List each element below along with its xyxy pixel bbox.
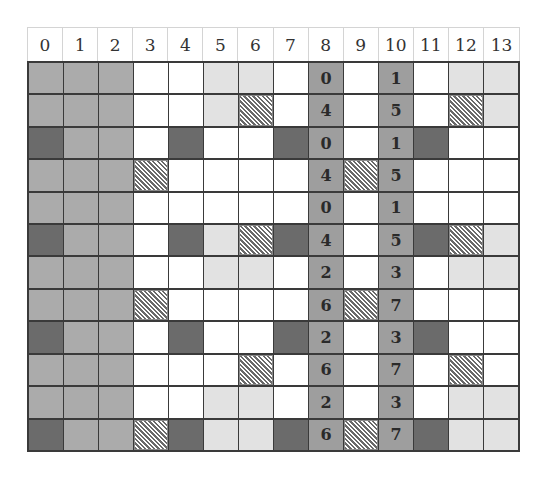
grid-cell-r4-c9-white (344, 193, 378, 223)
grid-cell-r10-c5-light-gray (204, 387, 238, 417)
grid-cell-r5-c12-hatched (449, 225, 483, 255)
grid-cell-r3-c9-hatched (344, 160, 378, 190)
grid-cell-r7-c1-mid-gray (64, 290, 98, 320)
grid-cell-r0-c9-white (344, 63, 378, 93)
grid-cell-r2-c13-white (484, 128, 518, 158)
grid-cell-r9-c10-numbered-gray: 7 (379, 355, 413, 385)
grid-cell-r7-c13-white (484, 290, 518, 320)
grid-cell-r9-c8-numbered-gray: 6 (309, 355, 343, 385)
grid-cell-r1-c8-numbered-gray: 4 (309, 95, 343, 125)
column-header-7: 7 (274, 28, 309, 61)
grid-cell-r3-c7-white (274, 160, 308, 190)
grid-cell-r10-c12-light-gray (449, 387, 483, 417)
grid-cell-r2-c9-white (344, 128, 378, 158)
grid-cell-r6-c4-white (169, 257, 203, 287)
grid-cell-r6-c10-numbered-gray: 3 (379, 257, 413, 287)
column-header-4: 4 (168, 28, 203, 61)
grid-cell-r1-c7-white (274, 95, 308, 125)
grid-cell-r5-c5-light-gray (204, 225, 238, 255)
grid-cell-r5-c1-mid-gray (64, 225, 98, 255)
grid-cell-r8-c5-white (204, 322, 238, 352)
grid-cell-r8-c9-white (344, 322, 378, 352)
grid-cell-r6-c9-white (344, 257, 378, 287)
grid-cell-r11-c0-dark-gray (29, 420, 63, 450)
grid-cell-r1-c1-mid-gray (64, 95, 98, 125)
grid-cell-r5-c4-dark-gray (169, 225, 203, 255)
grid-cell-r11-c4-dark-gray (169, 420, 203, 450)
grid-cell-r11-c6-light-gray (239, 420, 273, 450)
grid-cell-r4-c10-numbered-gray: 1 (379, 193, 413, 223)
grid-cell-r8-c6-white (239, 322, 273, 352)
grid-cell-r9-c11-white (414, 355, 448, 385)
grid-cell-r1-c3-white (134, 95, 168, 125)
grid-cell-r2-c5-white (204, 128, 238, 158)
grid-cell-r2-c0-dark-gray (29, 128, 63, 158)
grid-cell-r4-c4-white (169, 193, 203, 223)
grid-cell-r2-c7-dark-gray (274, 128, 308, 158)
grid-cell-r10-c0-mid-gray (29, 387, 63, 417)
column-header-2: 2 (98, 28, 133, 61)
grid-cell-r8-c10-numbered-gray: 3 (379, 322, 413, 352)
grid-cell-r11-c8-numbered-gray: 6 (309, 420, 343, 450)
grid-cell-r11-c10-numbered-gray: 7 (379, 420, 413, 450)
grid-cell-r5-c6-hatched (239, 225, 273, 255)
grid-cell-r5-c3-white (134, 225, 168, 255)
grid-cell-r4-c1-mid-gray (64, 193, 98, 223)
grid-cell-r10-c6-light-gray (239, 387, 273, 417)
grid-cell-r11-c2-mid-gray (99, 420, 133, 450)
grid-cell-r10-c1-mid-gray (64, 387, 98, 417)
grid-cell-r6-c6-light-gray (239, 257, 273, 287)
grid-cell-r10-c2-mid-gray (99, 387, 133, 417)
grid-cell-r0-c2-mid-gray (99, 63, 133, 93)
grid-cell-r11-c9-hatched (344, 420, 378, 450)
grid-cell-r1-c6-hatched (239, 95, 273, 125)
grid-cell-r10-c11-white (414, 387, 448, 417)
grid-cell-r2-c6-white (239, 128, 273, 158)
grid-cell-r1-c9-white (344, 95, 378, 125)
grid-cell-r5-c13-light-gray (484, 225, 518, 255)
grid-cell-r1-c13-light-gray (484, 95, 518, 125)
grid-cell-r8-c4-dark-gray (169, 322, 203, 352)
grid-cell-r3-c6-white (239, 160, 273, 190)
grid-cell-r2-c8-numbered-gray: 0 (309, 128, 343, 158)
grid-cell-r3-c5-white (204, 160, 238, 190)
column-header-5: 5 (203, 28, 238, 61)
grid-cell-r11-c7-dark-gray (274, 420, 308, 450)
grid-cell-r9-c5-white (204, 355, 238, 385)
grid-cell-r6-c1-mid-gray (64, 257, 98, 287)
grid-cell-r10-c7-white (274, 387, 308, 417)
column-header-10: 10 (379, 28, 414, 61)
grid-cell-r7-c8-numbered-gray: 6 (309, 290, 343, 320)
grid-cell-r4-c0-mid-gray (29, 193, 63, 223)
grid-cell-r2-c12-white (449, 128, 483, 158)
grid-cell-r6-c0-mid-gray (29, 257, 63, 287)
grid-cell-r7-c11-white (414, 290, 448, 320)
grid-cell-r6-c12-light-gray (449, 257, 483, 287)
grid-cell-r3-c1-mid-gray (64, 160, 98, 190)
grid-cell-r5-c2-mid-gray (99, 225, 133, 255)
grid-cell-r9-c3-white (134, 355, 168, 385)
grid-cell-r5-c7-dark-gray (274, 225, 308, 255)
memory-grid-diagram: 012345678910111213 014501450145236723672… (27, 27, 520, 452)
grid-cell-r4-c6-white (239, 193, 273, 223)
grid-cell-r1-c12-hatched (449, 95, 483, 125)
grid-cell-r2-c2-mid-gray (99, 128, 133, 158)
grid-cell-r4-c11-white (414, 193, 448, 223)
grid-cell-r8-c13-white (484, 322, 518, 352)
grid-cell-r8-c7-dark-gray (274, 322, 308, 352)
grid-cell-r8-c2-mid-gray (99, 322, 133, 352)
grid-cell-r2-c4-dark-gray (169, 128, 203, 158)
grid-cell-r0-c8-numbered-gray: 0 (309, 63, 343, 93)
grid-cell-r8-c8-numbered-gray: 2 (309, 322, 343, 352)
grid-cell-r11-c1-mid-gray (64, 420, 98, 450)
grid-cell-r5-c9-white (344, 225, 378, 255)
grid-cell-r7-c3-hatched (134, 290, 168, 320)
grid-cell-r6-c13-light-gray (484, 257, 518, 287)
grid-cell-r0-c6-light-gray (239, 63, 273, 93)
grid-cell-r3-c4-white (169, 160, 203, 190)
grid-cell-r6-c3-white (134, 257, 168, 287)
grid-cell-r7-c10-numbered-gray: 7 (379, 290, 413, 320)
grid-cell-r0-c0-mid-gray (29, 63, 63, 93)
grid-cell-r8-c3-white (134, 322, 168, 352)
grid-cell-r0-c13-light-gray (484, 63, 518, 93)
